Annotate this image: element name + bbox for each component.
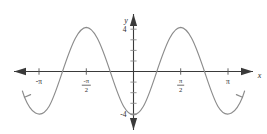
y-tick-label-neg-4: -4 <box>120 110 126 119</box>
x-tick-label-neg-pi-over-2: -π 2 <box>82 77 91 93</box>
curve-right-arrow-icon <box>236 91 244 97</box>
graph-figure: y x 4 -4 -π -π 2 π 2 π <box>0 0 267 134</box>
x-axis-label: x <box>257 71 262 80</box>
curve-left-arrow-icon <box>22 91 30 97</box>
x-tick-label-neg-pi-over-2-numerator: -π <box>84 77 90 84</box>
y-axis-label: y <box>123 16 128 25</box>
y-axis-top-arrow-icon <box>130 14 137 26</box>
x-tick-label-neg-pi: -π <box>36 77 42 86</box>
x-tick-label-pi: π <box>226 77 230 86</box>
y-axis-bottom-arrow-icon <box>130 118 137 130</box>
x-axis-right-arrow-icon <box>241 68 253 75</box>
x-axis-left-arrow-icon <box>14 68 26 75</box>
coordinate-plane: y x 4 -4 -π -π 2 π 2 π <box>0 0 267 134</box>
x-tick-label-neg-pi-over-2-denominator: 2 <box>85 86 88 93</box>
x-tick-label-pi-over-2-numerator: π <box>179 77 183 84</box>
y-tick-label-4: 4 <box>123 25 127 34</box>
x-tick-label-pi-over-2: π 2 <box>177 77 184 93</box>
top-clipped-fragment <box>86 0 110 4</box>
x-tick-label-pi-over-2-denominator: 2 <box>179 86 182 93</box>
